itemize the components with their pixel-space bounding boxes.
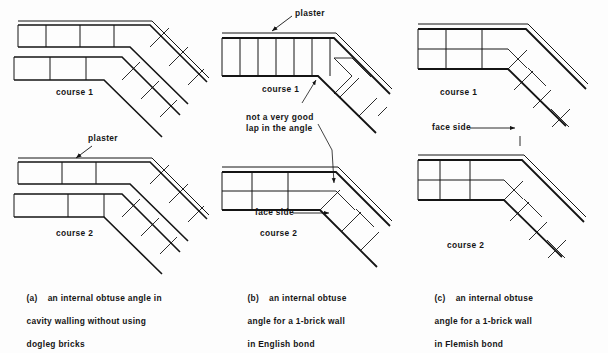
caption-b-line1: an internal obtuse [269, 293, 347, 303]
lap-note-line2: lap in the angle [246, 123, 313, 134]
panel-a-course2 [14, 158, 209, 274]
caption-b-marker: (b) [248, 293, 260, 303]
caption-a-line1: an internal obtuse angle in [48, 293, 162, 303]
course-label-b-1: course 1 [262, 84, 299, 95]
caption-a: (a)an internal obtuse angle in cavity wa… [16, 281, 162, 353]
course-label-b-2: course 2 [260, 228, 297, 239]
face-side-label-mid: face side [255, 207, 294, 218]
course-label-a-2: course 2 [56, 228, 93, 239]
course-label-a-1: course 1 [56, 87, 93, 98]
plaster-label-mid: plaster [295, 8, 325, 19]
panel-a-course1 [14, 21, 209, 137]
caption-b-line3: in English bond [248, 339, 315, 349]
caption-b: (b)an internal obtuse angle for a 1-bric… [237, 281, 347, 353]
caption-c: (c)an internal obtuse angle for a 1-bric… [424, 281, 533, 353]
caption-a-line3: dogleg bricks [27, 339, 85, 349]
caption-a-marker: (a) [27, 293, 38, 303]
panel-b-course2 [222, 167, 392, 267]
face-side-label-right: face side [432, 122, 471, 133]
caption-c-line3: in Flemish bond [435, 339, 504, 349]
caption-a-line2: cavity walling without using [27, 316, 147, 326]
face-side-leader-right [470, 128, 520, 146]
course-label-c-2: course 2 [447, 240, 484, 251]
caption-c-line2: angle for a 1-brick wall [435, 316, 533, 326]
plaster-label-left: plaster [88, 133, 118, 144]
caption-c-line1: an internal obtuse [456, 293, 534, 303]
plaster-leader-left [76, 146, 92, 158]
course-label-c-1: course 1 [440, 87, 477, 98]
panel-c-course1 [418, 24, 588, 127]
panel-c-course2 [418, 155, 586, 258]
lap-note-line1: not a very good [246, 112, 314, 123]
caption-b-line2: angle for a 1-brick wall [248, 316, 346, 326]
caption-c-marker: (c) [435, 293, 446, 303]
plaster-leader-mid [272, 16, 292, 31]
